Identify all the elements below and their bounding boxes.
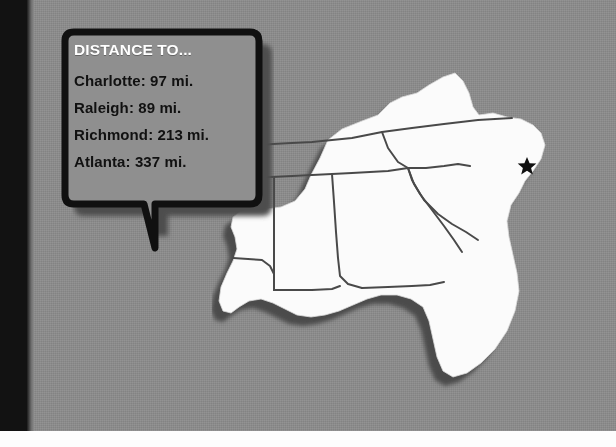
callout-text-block: DISTANCE TO... Charlotte: 97 mi. Raleigh… [74, 40, 256, 175]
distance-row-richmond: Richmond: 213 mi. [74, 121, 256, 148]
distance-row-atlanta: Atlanta: 337 mi. [74, 148, 256, 175]
distance-row-charlotte: Charlotte: 97 mi. [74, 67, 256, 94]
map-graphic-page: DISTANCE TO... Charlotte: 97 mi. Raleigh… [0, 0, 616, 447]
left-band-feather [27, 0, 34, 431]
distance-row-raleigh: Raleigh: 89 mi. [74, 94, 256, 121]
callout-title: DISTANCE TO... [74, 40, 256, 60]
left-dark-band [0, 0, 29, 431]
bottom-white-strip [0, 431, 616, 447]
